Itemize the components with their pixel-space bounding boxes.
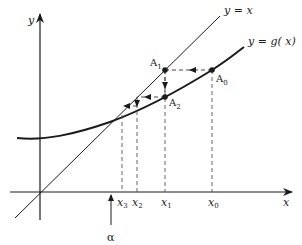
alpha-label: α xyxy=(107,231,115,244)
tick-x0: x0 xyxy=(208,196,219,210)
point-a0 xyxy=(209,67,215,73)
point-a2 xyxy=(162,94,168,100)
point-a1 xyxy=(162,67,168,73)
label-a2: A2 xyxy=(168,97,181,111)
y-axis-label: y xyxy=(27,14,35,27)
alpha-marker: α xyxy=(107,195,115,244)
iteration-path xyxy=(124,70,212,106)
x-axis-label: x xyxy=(283,196,290,209)
tick-x3: x3 xyxy=(117,196,128,210)
label-a1: A1 xyxy=(149,57,162,71)
drop-lines xyxy=(122,70,212,192)
fixed-point-iteration-diagram: y x y = x y = g( x) xyxy=(0,0,302,245)
x-tick-labels: x3 x2 x1 x0 xyxy=(117,196,219,210)
tick-x2: x2 xyxy=(132,196,143,210)
g-curve: y = g( x) xyxy=(17,35,296,139)
g-curve-label: y = g( x) xyxy=(247,35,296,48)
identity-line: y = x xyxy=(15,4,253,218)
tick-x1: x1 xyxy=(161,196,172,210)
label-a0: A0 xyxy=(215,73,228,87)
identity-line-label: y = x xyxy=(223,4,253,17)
